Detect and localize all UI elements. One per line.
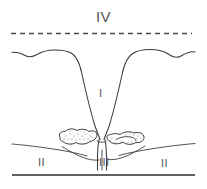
zone-label-iii: III: [99, 156, 110, 168]
surface-contour-left: [12, 50, 81, 70]
stippled-irregular-mass-left: [59, 129, 97, 144]
surface-contour-right: [123, 50, 195, 71]
zone-label-ii-left: II: [38, 156, 45, 168]
lower-lobe-right: [108, 146, 145, 160]
zone-label-i: I: [99, 87, 103, 99]
cross-section-figure: IV I II III II: [0, 0, 207, 189]
zone-label-iv: IV: [0, 8, 207, 25]
zone-label-ii-right: II: [161, 157, 168, 169]
lower-lobe-left: [62, 147, 99, 161]
cleft-wall-right: [104, 71, 123, 140]
